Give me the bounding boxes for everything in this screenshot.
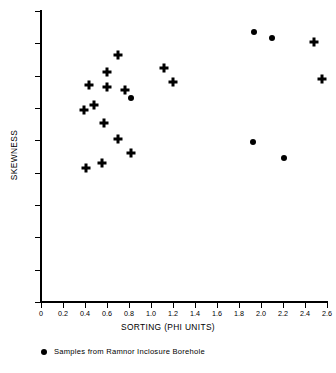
x-tick-mark	[283, 303, 284, 308]
x-tick-mark	[195, 303, 196, 308]
x-tick-label: 1.4	[190, 310, 200, 317]
x-tick-mark	[41, 303, 42, 308]
x-tick-label: 0.4	[80, 310, 90, 317]
data-point-plus	[114, 50, 123, 59]
x-tick-mark	[107, 303, 108, 308]
x-tick-label: 2.6	[322, 310, 332, 317]
data-point-plus	[85, 81, 94, 90]
data-point-circle	[128, 95, 134, 101]
data-point-plus	[89, 100, 98, 109]
legend-label: Samples from Ramnor Inclosure Borehole	[54, 347, 205, 356]
data-point-plus	[103, 68, 112, 77]
data-point-plus	[114, 134, 123, 143]
x-tick-label: 0.6	[102, 310, 112, 317]
x-tick-label: 2.0	[256, 310, 266, 317]
data-point-circle	[281, 155, 287, 161]
data-point-plus	[79, 105, 88, 114]
x-tick-mark	[327, 303, 328, 308]
data-point-circle	[250, 139, 256, 145]
legend-circle-icon	[41, 349, 47, 355]
x-tick-label: 2.4	[300, 310, 310, 317]
x-tick-mark	[151, 303, 152, 308]
data-point-plus	[309, 37, 318, 46]
scatter-plot-figure: +0.8+0.6+0.4+0.20-0.2-0.4-0.6-0.8-1.0 00…	[0, 0, 336, 373]
data-point-plus	[99, 118, 108, 127]
data-point-plus	[120, 86, 129, 95]
x-tick-label: 0.2	[58, 310, 68, 317]
data-point-plus	[103, 82, 112, 91]
x-tick-label: 0	[39, 310, 43, 317]
x-tick-mark	[261, 303, 262, 308]
data-point-plus	[169, 78, 178, 87]
x-tick-mark	[63, 303, 64, 308]
x-tick-label: 1.0	[146, 310, 156, 317]
data-point-plus	[97, 158, 106, 167]
x-tick-mark	[85, 303, 86, 308]
x-tick-label: 1.6	[212, 310, 222, 317]
x-tick-mark	[129, 303, 130, 308]
data-point-circle	[251, 29, 257, 35]
data-point-plus	[317, 74, 326, 83]
x-tick-label: 0.8	[124, 310, 134, 317]
data-point-plus	[127, 149, 136, 158]
x-tick-label: 1.2	[168, 310, 178, 317]
x-tick-mark	[173, 303, 174, 308]
data-point-plus	[82, 163, 91, 172]
y-axis-title: SKEWNESS	[9, 105, 19, 205]
x-tick-mark	[239, 303, 240, 308]
data-point-plus	[160, 63, 169, 72]
legend: Samples from Ramnor Inclosure Borehole	[41, 347, 205, 356]
x-tick-label: 2.2	[278, 310, 288, 317]
x-axis-title: SORTING (PHI UNITS)	[0, 322, 336, 332]
data-point-circle	[269, 35, 275, 41]
x-tick-mark	[217, 303, 218, 308]
x-tick-mark	[305, 303, 306, 308]
x-tick-label: 1.8	[234, 310, 244, 317]
